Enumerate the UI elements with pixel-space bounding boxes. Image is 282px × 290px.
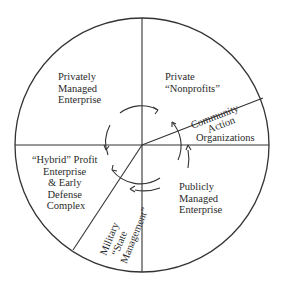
label-community-organizations: Organizations bbox=[196, 132, 255, 143]
label-hybrid-profit: “Hybrid” Profit Enterprise & Early Defen… bbox=[32, 154, 100, 211]
label-privately-managed: Privately Managed Enterprise bbox=[58, 71, 101, 105]
circular-arrows-icon bbox=[104, 106, 191, 192]
label-military: Military “State Management” bbox=[98, 197, 151, 265]
sector-wheel-diagram: Privately Managed Enterprise Private “No… bbox=[0, 0, 282, 290]
label-private-nonprofits: Private “Nonprofits” bbox=[165, 71, 220, 94]
label-publicly-managed: Publicly Managed Enterprise bbox=[179, 181, 222, 215]
